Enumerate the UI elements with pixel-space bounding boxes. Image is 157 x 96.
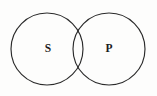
predicate-circle-label: P: [105, 42, 112, 54]
venn-diagram: S P: [0, 0, 157, 96]
venn-diagram-canvas: S P: [0, 0, 157, 96]
subject-circle-label: S: [45, 42, 52, 54]
